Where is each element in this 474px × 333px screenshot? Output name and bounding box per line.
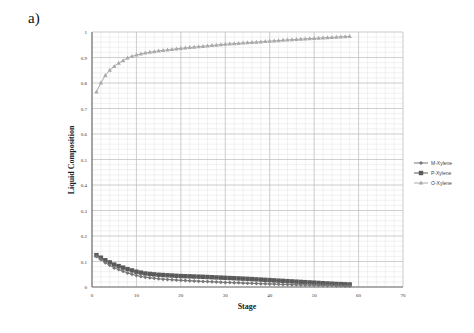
x-tick-label: 40 xyxy=(267,293,273,298)
y-tick-label: 0.7 xyxy=(81,107,88,112)
legend: M-XyleneP-XyleneO-Xylene xyxy=(414,160,452,186)
tick-labels: 01020304050607000.10.20.30.40.50.60.70.8… xyxy=(81,30,406,298)
x-tick-label: 20 xyxy=(178,293,184,298)
major-gridlines xyxy=(92,32,403,287)
series-layer xyxy=(94,34,352,288)
y-tick-label: 0.1 xyxy=(81,260,88,265)
legend-label: P-Xylene xyxy=(431,170,452,176)
y-tick-label: 1 xyxy=(85,30,88,35)
y-tick-label: 0.5 xyxy=(81,158,88,163)
x-tick-label: 30 xyxy=(223,293,229,298)
x-tick-label: 60 xyxy=(356,293,362,298)
legend-label: O-Xylene xyxy=(431,180,452,186)
legend-label: M-Xylene xyxy=(431,160,452,166)
x-tick-label: 0 xyxy=(91,293,94,298)
x-tick-label: 10 xyxy=(134,293,140,298)
y-tick-label: 0.3 xyxy=(81,209,88,214)
series-o-xylene xyxy=(94,34,352,94)
x-tick-label: 70 xyxy=(401,293,407,298)
legend-item-p-xylene: P-Xylene xyxy=(414,170,452,176)
y-tick-label: 0.9 xyxy=(81,56,88,61)
y-tick-label: 0.6 xyxy=(81,132,88,137)
x-axis-title: Stage xyxy=(238,302,257,311)
y-tick-label: 0.8 xyxy=(81,81,88,86)
line-chart: 01020304050607000.10.20.30.40.50.60.70.8… xyxy=(0,0,474,333)
y-tick-label: 0.2 xyxy=(81,234,88,239)
series-p-xylene xyxy=(94,253,352,287)
y-axis-title: Liquid Composition xyxy=(67,125,76,194)
x-tick-label: 50 xyxy=(312,293,318,298)
legend-item-m-xylene: M-Xylene xyxy=(414,160,452,166)
legend-item-o-xylene: O-Xylene xyxy=(414,180,452,186)
y-tick-label: 0 xyxy=(85,285,88,290)
y-tick-label: 0.4 xyxy=(81,183,88,188)
